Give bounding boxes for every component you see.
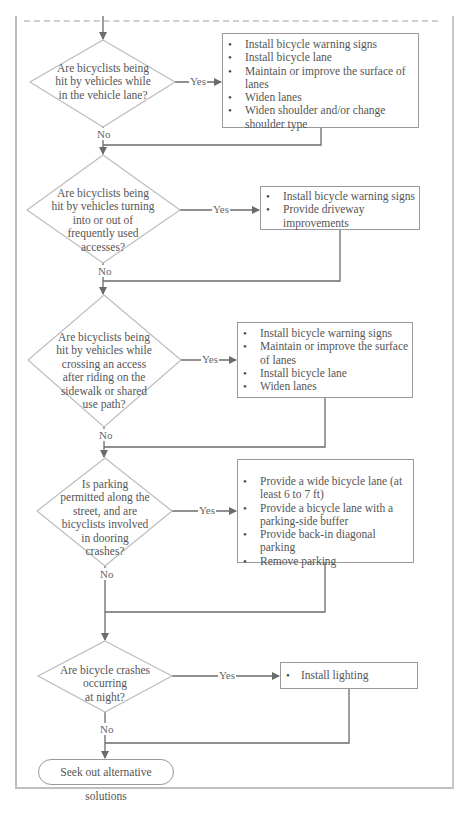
no-label-5: No bbox=[99, 723, 114, 735]
action-item: Maintain or improve the surface of lanes bbox=[238, 340, 412, 367]
action-box-1: Install bicycle warning signs Install bi… bbox=[222, 33, 419, 128]
decision-4-text: Is parking permitted along the street, a… bbox=[50, 478, 160, 558]
action-item: Provide back-in diagonal parking bbox=[238, 528, 413, 555]
action-item: Widen shoulder and/or change shoulder ty… bbox=[223, 104, 418, 131]
yes-label-1: Yes bbox=[189, 75, 207, 87]
action-item: Remove parking bbox=[238, 555, 413, 568]
decision-5-text: Are bicycle crashes occurring at night? bbox=[50, 664, 160, 704]
action-item: Widen lanes bbox=[238, 380, 412, 393]
no-label-2: No bbox=[97, 265, 112, 277]
action-item: Install bicycle lane bbox=[223, 51, 418, 64]
no-label-1: No bbox=[96, 128, 111, 140]
action-box-2: Install bicycle warning signs Provide dr… bbox=[260, 186, 420, 230]
yes-label-4: Yes bbox=[198, 504, 216, 516]
decision-2-text: Are bicyclists being hit by vehicles tur… bbox=[48, 187, 158, 254]
action-item: Provide a bicycle lane with a parking-si… bbox=[238, 502, 413, 529]
action-item: Install bicycle warning signs bbox=[261, 190, 419, 203]
no-label-3: No bbox=[98, 429, 113, 441]
action-item: Provide driveway improvements bbox=[261, 203, 419, 230]
no-label-4: No bbox=[99, 568, 114, 580]
action-box-3: Install bicycle warning signs Maintain o… bbox=[237, 322, 413, 398]
action-item: Install bicycle lane bbox=[238, 367, 412, 380]
action-item: Install bicycle warning signs bbox=[238, 327, 412, 340]
action-item: Provide a wide bicycle lane (at least 6 … bbox=[238, 475, 413, 502]
yes-label-3: Yes bbox=[201, 353, 219, 365]
yes-label-5: Yes bbox=[218, 669, 236, 681]
action-box-4: Provide a wide bicycle lane (at least 6 … bbox=[237, 459, 414, 563]
terminal-seek-alternatives: Seek out alternative solutions bbox=[38, 759, 174, 785]
decision-1-text: Are bicyclists being hit by vehicles whi… bbox=[48, 62, 158, 102]
action-box-5: Install lighting bbox=[280, 662, 418, 689]
action-item: Widen lanes bbox=[223, 91, 418, 104]
action-item: Install bicycle warning signs bbox=[223, 38, 418, 51]
action-item: Maintain or improve the surface of lanes bbox=[223, 65, 418, 92]
action-item: Install lighting bbox=[281, 669, 417, 682]
yes-label-2: Yes bbox=[212, 203, 230, 215]
decision-3-text: Are bicyclists being hit by vehicles whi… bbox=[49, 331, 159, 411]
